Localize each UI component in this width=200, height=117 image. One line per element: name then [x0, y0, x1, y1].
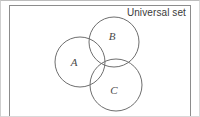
- universal-set-label: Universal set: [127, 7, 186, 18]
- venn-diagram-figure: A B C Universal set: [0, 0, 200, 117]
- set-circle-a: [55, 37, 105, 87]
- set-label-c: C: [110, 84, 118, 96]
- set-label-a: A: [70, 56, 78, 68]
- set-label-b: B: [109, 30, 116, 42]
